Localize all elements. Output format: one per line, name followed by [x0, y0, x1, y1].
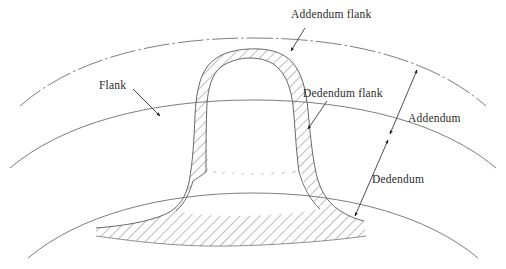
label-flank: Flank — [99, 80, 126, 92]
label-addendum: Addendum — [408, 113, 461, 125]
gear-tooth-profile — [0, 0, 506, 269]
gear-tooth-diagram: Addendum flank Flank Dedendum flank Adde… — [0, 0, 506, 269]
label-dedendum: Dedendum — [372, 174, 424, 186]
label-addendum-flank: Addendum flank — [291, 9, 371, 21]
label-dedendum-flank: Dedendum flank — [303, 88, 383, 100]
gear-diagram-canvas — [0, 0, 506, 269]
